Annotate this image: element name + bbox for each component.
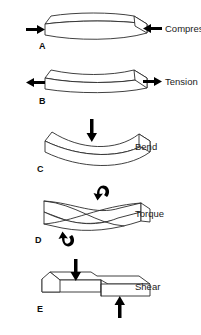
letter-label-d: D (35, 235, 42, 245)
tension-arrow-left (26, 78, 45, 87)
label-shear: Shear (135, 281, 160, 292)
shear-arrow-up (115, 296, 126, 318)
diagram-torque: Torque D (35, 186, 164, 247)
diagram-shear: Shear E (37, 259, 160, 318)
torque-arrow-rotation-top (94, 186, 110, 201)
letter-label-b: B (39, 96, 46, 106)
diagram-tension: Tension B (26, 70, 198, 106)
label-compression: Compression (165, 23, 201, 34)
stress-deformation-figure: Compression A Tension B Bend C (0, 0, 201, 335)
diagram-compression: Compression A (26, 13, 201, 51)
diagram-bend: Bend C (37, 119, 157, 174)
bend-arrow-down (87, 119, 98, 142)
label-bend: Bend (135, 141, 157, 152)
torque-arrow-rotation-bottom (59, 232, 75, 247)
label-tension: Tension (165, 76, 198, 87)
compression-block-front-face (45, 21, 147, 39)
compression-arrow-left (26, 25, 45, 34)
letter-label-c: C (37, 164, 44, 174)
letter-label-a: A (39, 41, 46, 51)
label-torque: Torque (135, 208, 164, 219)
letter-label-e: E (37, 304, 43, 314)
